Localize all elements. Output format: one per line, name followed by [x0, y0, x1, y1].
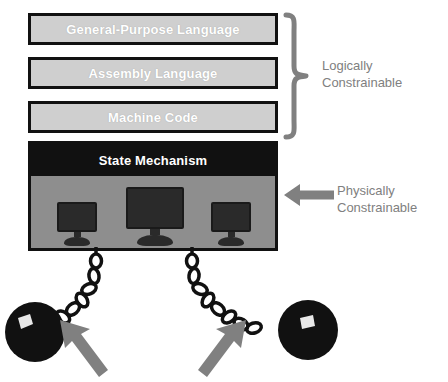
chain-anchor-left	[91, 247, 102, 268]
layer-label-general-purpose-language: General-Purpose Language	[66, 22, 239, 37]
hardware-panel: State Mechanism	[28, 141, 278, 251]
layer-box-machine-code: Machine Code	[28, 101, 278, 133]
layer-label-assembly-language: Assembly Language	[89, 66, 218, 81]
monitor-icon-center	[126, 187, 184, 246]
layer-label-state-mechanism: State Mechanism	[99, 153, 207, 168]
emphasis-arrow-right	[198, 320, 246, 377]
left-arrow-icon-physical	[284, 183, 334, 207]
monitor-screen	[126, 187, 184, 229]
layer-box-state-mechanism: State Mechanism	[31, 144, 275, 176]
monitor-group	[31, 176, 275, 248]
layer-label-machine-code: Machine Code	[108, 110, 198, 125]
monitor-icon-right	[211, 202, 251, 246]
annotation-label-physically-constrainable: Physically Constrainable	[337, 182, 417, 216]
monitor-icon-left	[57, 202, 97, 246]
emphasis-arrow-group	[0, 300, 448, 382]
diagram-canvas: General-Purpose Language Assembly Langua…	[0, 0, 448, 382]
monitor-screen	[57, 202, 97, 232]
annotation-label-logically-constrainable: Logically Constrainable	[322, 57, 402, 91]
layer-box-assembly-language: Assembly Language	[28, 57, 278, 89]
layer-box-general-purpose-language: General-Purpose Language	[28, 13, 278, 45]
curly-brace-icon	[283, 12, 309, 140]
chain-anchor-right	[187, 247, 198, 268]
emphasis-arrow-left	[60, 320, 108, 377]
monitor-screen	[211, 202, 251, 232]
